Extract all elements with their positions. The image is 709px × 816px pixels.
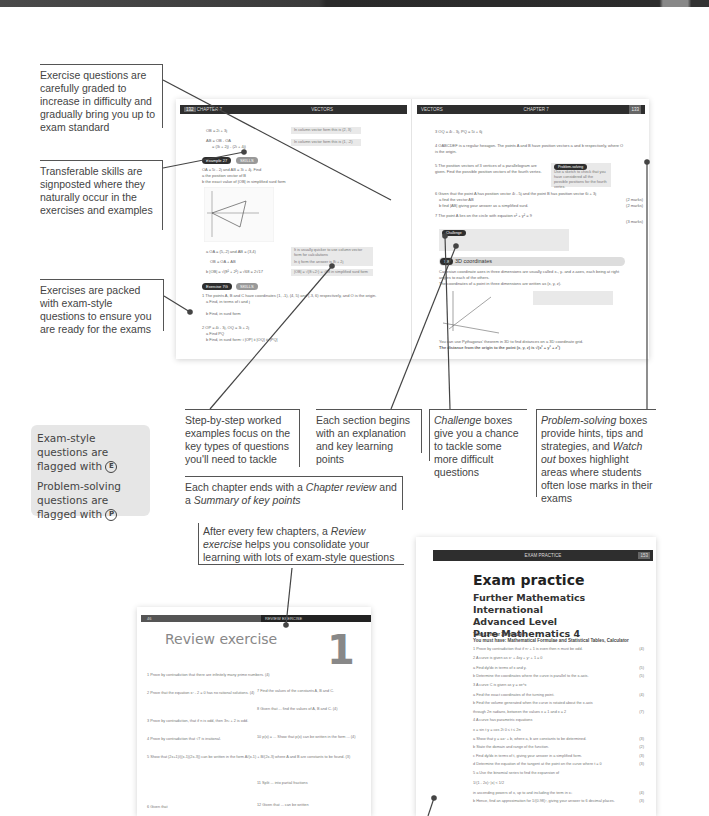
exam-question-line: b Determine the coordinates where the cu… xyxy=(473,674,588,678)
exam-question-line: 3 A curve C is given as y = xe^x xyxy=(473,683,526,687)
callout-challenge-boxes: Challenge boxes give you a chance to tac… xyxy=(429,409,527,461)
review-number: 1 xyxy=(327,627,355,673)
callout-section-intro: Each section begins with an explanation … xyxy=(316,409,422,453)
question-flags-key: Exam-style questions are flagged with E … xyxy=(31,425,150,516)
exam-question-line: a Find the exact coordinates of the turn… xyxy=(473,693,554,697)
exam-style-flag-icon: E xyxy=(105,461,117,473)
callout-problem-solving-boxes: Problem-solving boxes provide hints, tip… xyxy=(536,409,656,497)
exam-title: Exam practice xyxy=(473,572,584,588)
right-running-head: VECTORS CHAPTER 7 133 xyxy=(417,105,645,114)
exam-question-marks: (3) xyxy=(639,737,644,741)
exam-requirements: Time: 1 hour 30 minutes You must have: M… xyxy=(473,632,629,643)
skills-badge: SKILLS xyxy=(236,157,258,164)
exam-question-line: a Find dy/dx in terms of x and y. xyxy=(473,666,527,670)
callout-chapter-review: Each chapter ends with a Chapter review … xyxy=(185,476,403,510)
exam-question-line: 4 A curve has parametric equations xyxy=(473,718,532,722)
top-bar xyxy=(0,0,709,7)
exam-question-marks: (3) xyxy=(639,754,644,758)
exam-question-line: through 2π radians, between the values x… xyxy=(473,710,566,714)
3d-axes-diagram xyxy=(441,289,501,335)
exam-question-line: 5 a Use the binomial series to find the … xyxy=(473,771,559,775)
callout-transferable-skills: Transferable skills are signposted where… xyxy=(40,160,163,230)
exam-question-line: b Hence, find an approximation for 1/(0.… xyxy=(473,799,615,803)
exam-question-marks: (4) xyxy=(639,791,644,795)
callout-worked-examples: Step-by-step worked examples focus on th… xyxy=(185,409,300,467)
exam-question-marks: (4) xyxy=(639,693,644,697)
callout-review-exercise: After every few chapters, a Review exerc… xyxy=(198,523,404,565)
problem-solving-box: Problem-solving Use a sketch to check th… xyxy=(551,163,611,187)
left-page: 132 CHAPTER 7 VECTORS OB = 2i + 3j AB = … xyxy=(176,99,412,359)
exam-question-line: 1/(1 - 2x)² |x| < 1/2 xyxy=(473,781,504,785)
right-page: VECTORS CHAPTER 7 133 3 OQ = 4i - 3j, PQ… xyxy=(413,99,649,359)
example-badge: Example 27 xyxy=(202,157,231,164)
exam-question-line: a Show that y = ax² + b, where a, b are … xyxy=(473,737,586,741)
review-title: Review exercise xyxy=(165,631,277,647)
review-running-head: 46 REVIEW EXERCISE xyxy=(141,615,371,622)
callout-graded-questions: Exercise questions are carefully graded … xyxy=(40,64,163,128)
exam-question-line: b Find the volume generated when the cur… xyxy=(473,701,593,705)
exam-question-line: d Determine the equation of the tangent … xyxy=(473,762,602,766)
section-heading: 7.8 3D coordinates xyxy=(439,257,625,266)
note-box xyxy=(533,291,613,305)
exam-question-line: 2 A curve is given as x² + 4xy + y² + 1 … xyxy=(473,656,542,660)
exam-question-line: in ascending powers of x, up to and incl… xyxy=(473,791,572,795)
challenge-box: Challenge xyxy=(439,229,569,251)
callout-exam-style-exercises: Exercises are packed with exam-style que… xyxy=(40,279,164,331)
review-exercise-page: 46 REVIEW EXERCISE Review exercise 1 1 P… xyxy=(137,607,371,816)
exam-practice-page: EXAM PRACTICE 153 Exam practice Further … xyxy=(416,537,656,816)
exam-question-line: x = sin t y = cos 2t 0 ≤ t ≤ 2π xyxy=(473,728,521,732)
exam-question-marks: (3) xyxy=(639,799,644,803)
vector-diagram xyxy=(204,187,274,242)
textbook-spread: 132 CHAPTER 7 VECTORS OB = 2i + 3j AB = … xyxy=(176,99,649,359)
exam-question-marks: (7) xyxy=(639,710,644,714)
exercise-badge: Exercise 7G xyxy=(202,283,232,290)
problem-solving-flag-icon: P xyxy=(105,509,117,521)
exam-question-marks: (2) xyxy=(639,745,644,749)
exam-question-line: b State the domain and range of the func… xyxy=(473,745,549,749)
exam-question-marks: (5) xyxy=(639,666,644,670)
exam-question-line: 1 Prove by contradiction that if n² + 1 … xyxy=(473,647,583,651)
left-running-head: 132 CHAPTER 7 VECTORS xyxy=(180,105,407,114)
exam-question-line: c Find dy/dx in terms of t, giving your … xyxy=(473,754,582,758)
exam-running-head: EXAM PRACTICE 153 xyxy=(433,550,653,561)
exam-question-marks: (3) xyxy=(639,762,644,766)
exam-question-marks: (5) xyxy=(639,674,644,678)
exam-question-marks: (4) xyxy=(639,647,644,651)
